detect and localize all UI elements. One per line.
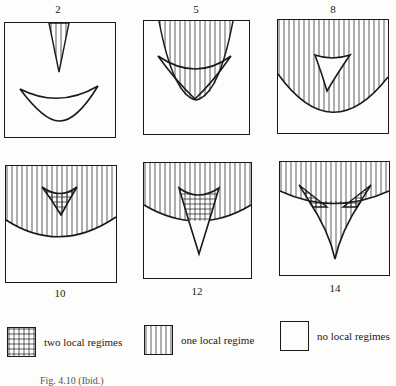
- grid-swatch-icon: [7, 327, 36, 357]
- blank-swatch-icon: [280, 321, 309, 351]
- legend-two-local-regimes: two local regimes: [7, 327, 122, 357]
- legend-label: one local regime: [181, 334, 254, 346]
- legend-label: no local regimes: [317, 330, 390, 342]
- panel-label-10: 10: [45, 287, 75, 299]
- panel-12: [143, 162, 253, 280]
- legend-label: two local regimes: [44, 336, 122, 348]
- panel-5: [143, 20, 251, 136]
- panel-label-14: 14: [320, 282, 350, 294]
- panel-label-8: 8: [318, 3, 348, 15]
- figure-caption: Fig. 4.10 (Ibid.): [40, 375, 104, 386]
- vertical-lines-swatch-icon: [144, 325, 173, 355]
- panel-label-5: 5: [181, 3, 211, 15]
- panel-10: [5, 165, 118, 284]
- legend-no-local-regimes: no local regimes: [280, 321, 390, 351]
- panel-14: [279, 161, 391, 277]
- panel-8: [277, 19, 390, 135]
- panel-label-2: 2: [43, 3, 73, 15]
- panel-2: [4, 22, 117, 139]
- legend-one-local-regime: one local regime: [144, 325, 254, 355]
- panel-label-12: 12: [182, 285, 212, 297]
